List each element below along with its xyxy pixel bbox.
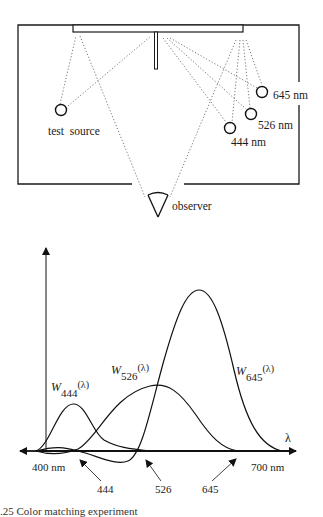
x-axis-symbol: λ [285, 431, 291, 445]
primary-label-526: 526 nm [258, 119, 293, 131]
light-paths [60, 36, 262, 197]
marker-label-645: 645 [202, 483, 219, 495]
label-w526: W526(λ) [111, 362, 149, 382]
primary-lamp-645 [257, 87, 268, 98]
observer-label: observer [172, 200, 212, 212]
figure-caption-fragment: .25 Color matching experiment [0, 505, 323, 517]
curve-w444 [36, 404, 296, 451]
primary-lamp-526 [246, 109, 257, 120]
marker-arrow-645 [212, 459, 236, 481]
marker-arrow-526 [146, 460, 161, 481]
x-min-label: 400 nm [32, 461, 66, 473]
marker-label-526: 526 [155, 483, 172, 495]
divider [155, 32, 158, 69]
observer-eye-icon [148, 193, 168, 218]
matching-functions-graph: W444(λ) W526(λ) W645(λ) λ 400 nm 700 nm … [20, 248, 296, 495]
primary-label-645: 645 nm [273, 89, 308, 101]
color-matching-figure: test source 645 nm 526 nm 444 nm observe… [0, 0, 323, 517]
screen-bar [73, 25, 243, 32]
test-source-label: test source [48, 125, 100, 137]
label-w444: W444(λ) [51, 379, 89, 399]
x-max-label: 700 nm [251, 461, 285, 473]
primary-label-444: 444 nm [231, 136, 266, 148]
primary-lamp-444 [225, 123, 236, 134]
marker-arrows [80, 459, 236, 481]
apparatus-diagram: test source 645 nm 526 nm 444 nm observe… [18, 25, 308, 217]
label-w645: W645(λ) [236, 363, 274, 383]
marker-label-444: 444 [97, 483, 114, 495]
test-source-lamp [56, 105, 67, 116]
marker-arrow-444 [80, 460, 101, 481]
